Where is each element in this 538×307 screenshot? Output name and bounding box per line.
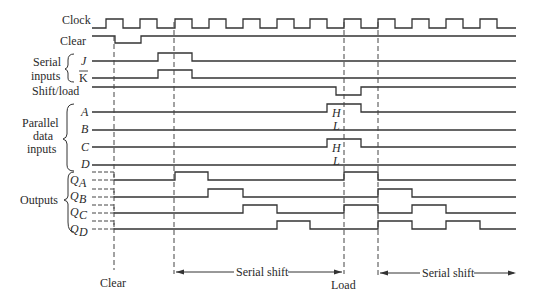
clock-label: Clock	[62, 13, 91, 27]
svg-text:Q: Q	[70, 173, 79, 187]
serial-shift-2-label: Serial shift	[422, 266, 475, 280]
serial-shift-1-label: Serial shift	[236, 265, 289, 279]
b-label: B	[81, 122, 89, 136]
a-waveform	[92, 104, 516, 112]
j-label: J	[81, 54, 87, 68]
serial-shift-2-span: Serial shift	[380, 266, 516, 280]
clear-label: Clear	[60, 34, 86, 48]
svg-text:Parallel: Parallel	[22, 116, 59, 130]
svg-text:Q: Q	[70, 189, 79, 203]
load-annotation: Load	[331, 278, 356, 292]
svg-text:C: C	[79, 208, 88, 222]
svg-text:inputs: inputs	[31, 69, 61, 83]
k-label: K	[79, 71, 88, 85]
svg-text:data: data	[33, 129, 54, 143]
shift-load-label: Shift/load	[32, 84, 79, 98]
svg-text:Q: Q	[70, 222, 79, 236]
clear-waveform	[92, 36, 516, 43]
outputs-label: Outputs	[20, 193, 58, 207]
clock-waveform	[92, 19, 516, 28]
parallel-inputs-brace	[63, 104, 74, 171]
svg-text:D: D	[78, 225, 88, 239]
serial-shift-1-span: Serial shift	[176, 265, 342, 279]
k-waveform	[92, 70, 516, 78]
timing-diagram: Clock Clear Serial inputs J K Shift/load…	[0, 0, 538, 307]
clear-annotation: Clear	[100, 276, 126, 290]
serial-inputs-label: Serial inputs	[31, 55, 62, 83]
parallel-data-inputs-label: Parallel data inputs	[22, 116, 59, 156]
a-label: A	[80, 105, 89, 119]
qa-label: Q A	[70, 173, 87, 190]
qc-label: Q C	[70, 205, 88, 222]
svg-text:Q: Q	[70, 205, 79, 219]
output-unknown-state-dashes	[92, 172, 114, 229]
c-low-label: L	[332, 154, 340, 168]
svg-text:A: A	[78, 176, 87, 190]
svg-text:B: B	[79, 192, 87, 206]
a-low-label: L	[332, 119, 340, 133]
shift-load-waveform	[92, 87, 516, 95]
svg-text:Serial: Serial	[33, 55, 62, 69]
serial-inputs-brace	[65, 54, 74, 82]
d-label: D	[80, 157, 90, 171]
a-high-label: H	[331, 106, 342, 120]
qb-label: Q B	[70, 189, 87, 206]
svg-text:inputs: inputs	[27, 142, 57, 156]
c-waveform	[92, 139, 516, 147]
c-label: C	[81, 140, 90, 154]
qd-label: Q D	[70, 222, 88, 239]
c-high-label: H	[331, 141, 342, 155]
j-waveform	[92, 53, 516, 61]
